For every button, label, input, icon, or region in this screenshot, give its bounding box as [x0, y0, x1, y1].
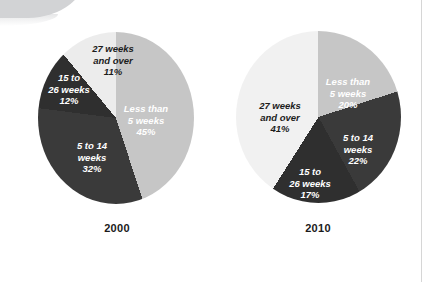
year-label-2010: 2010 [305, 222, 331, 234]
pie-2010-disc [236, 31, 401, 203]
pie-chart-2010: Less than 5 weeks 20% 5 to 14 weeks 22% … [236, 31, 401, 203]
pie-chart-2000: Less than 5 weeks 45% 5 to 14 weeks 32% … [38, 32, 194, 204]
year-label-2000: 2000 [104, 222, 130, 234]
corner-decoration-shadow [0, 14, 58, 26]
pie-2000-disc [38, 32, 194, 204]
figure-canvas: Less than 5 weeks 45% 5 to 14 weeks 32% … [0, 0, 438, 282]
page-margin-rule [421, 0, 422, 282]
